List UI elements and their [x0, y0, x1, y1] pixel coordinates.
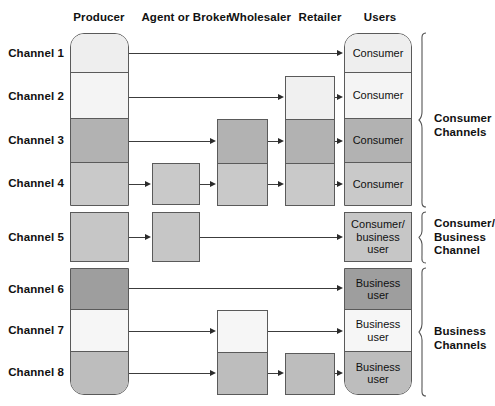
connector-ch8-producer-wholesaler [129, 373, 210, 374]
users-cell-ch4: Consumer [345, 163, 411, 205]
producer-stack-consumer [70, 33, 129, 206]
bracket-business-channels [418, 267, 430, 397]
arrowhead-ch4-wholesaler [210, 181, 216, 187]
bracket-label-consumer-business-line2: Business [434, 231, 495, 245]
agent-cell-ch4 [152, 163, 200, 205]
connector-ch5-agent-users [200, 237, 337, 238]
retailer-cell-ch3 [286, 120, 334, 164]
users-cell-ch8-label-line1: Business [356, 361, 401, 374]
wholesaler-cell-ch4 [218, 164, 267, 205]
arrowhead-ch5-agent [145, 234, 151, 240]
users-cell-ch3: Consumer [345, 119, 411, 163]
users-cell-ch6-label-line2: user [367, 289, 388, 302]
users-cell-ch2-label: Consumer [353, 89, 404, 102]
wholesaler-stack-business [217, 310, 268, 395]
column-header-producer: Producer [62, 11, 136, 23]
channel-label-7: Channel 7 [0, 324, 64, 336]
connector-ch7-producer-wholesaler [129, 331, 210, 332]
bracket-label-consumer-business-channel: Consumer/ Business Channel [434, 217, 495, 258]
wholesaler-cell-ch7 [218, 311, 267, 353]
agent-cell-ch5 [152, 212, 200, 262]
users-stack-consumer: Consumer Consumer Consumer Consumer [344, 33, 412, 206]
bracket-consumer-channels [418, 32, 430, 208]
arrowhead-ch7-users [337, 328, 343, 334]
producer-cell-ch2 [71, 73, 128, 119]
producer-cell-ch1 [71, 34, 128, 73]
users-cell-ch7-label-line1: Business [356, 318, 401, 331]
users-cell-ch7-label-line2: user [367, 331, 388, 344]
bracket-label-consumer-channels-line1: Consumer [434, 112, 492, 126]
connector-ch3-producer-wholesaler [129, 141, 210, 142]
connector-ch4-agent-wholesaler [200, 184, 210, 185]
users-cell-ch3-label: Consumer [353, 134, 404, 147]
retailer-cell-ch4 [286, 164, 334, 205]
arrowhead-ch5-users [337, 234, 343, 240]
column-header-users: Users [344, 11, 416, 23]
connector-ch6-producer-users [129, 288, 337, 289]
users-cell-ch4-label: Consumer [353, 178, 404, 191]
users-cell-ch5: Consumer/ business user [344, 212, 412, 262]
wholesaler-cell-ch3 [218, 120, 267, 164]
bracket-label-business-channels-line1: Business [434, 325, 487, 339]
producer-cell-ch5 [70, 212, 129, 262]
channel-label-3: Channel 3 [0, 134, 64, 146]
users-cell-ch1-label: Consumer [353, 47, 404, 60]
bracket-label-consumer-business-line1: Consumer/ [434, 217, 495, 231]
arrowhead-ch6-users [337, 285, 343, 291]
connector-ch4-wholesaler-retailer [268, 184, 278, 185]
arrowhead-ch3-users [337, 138, 343, 144]
producer-stack-business [70, 268, 129, 395]
users-cell-ch5-label-line3: user [367, 243, 388, 256]
producer-cell-ch7 [71, 310, 128, 352]
bracket-label-consumer-business-line3: Channel [434, 244, 495, 258]
arrowhead-ch3-retailer [278, 138, 284, 144]
arrowhead-ch1-users [337, 50, 343, 56]
arrowhead-ch3-wholesaler [210, 138, 216, 144]
connector-ch8-wholesaler-retailer [268, 373, 278, 374]
users-cell-ch1: Consumer [345, 34, 411, 73]
channel-label-4: Channel 4 [0, 177, 64, 189]
users-stack-business: Business user Business user Business use… [344, 268, 412, 395]
producer-cell-ch3 [71, 119, 128, 163]
channel-label-2: Channel 2 [0, 90, 64, 102]
retailer-cell-ch8 [285, 353, 335, 395]
bracket-label-business-channels: Business Channels [434, 325, 487, 352]
channel-label-5: Channel 5 [0, 231, 64, 243]
arrowhead-ch2-retailer [278, 94, 284, 100]
channel-label-1: Channel 1 [0, 47, 64, 59]
bracket-label-consumer-channels: Consumer Channels [434, 112, 492, 139]
arrowhead-ch8-users [337, 370, 343, 376]
channel-label-6: Channel 6 [0, 283, 64, 295]
users-cell-ch8-label-line2: user [367, 373, 388, 386]
connector-ch4-producer-agent [129, 184, 145, 185]
users-cell-ch8: Business user [345, 352, 411, 394]
users-cell-ch6: Business user [345, 269, 411, 310]
connector-ch1-producer-users [129, 53, 337, 54]
users-cell-ch2: Consumer [345, 73, 411, 119]
connector-ch3-wholesaler-retailer [268, 141, 278, 142]
connector-ch2-producer-retailer [129, 97, 278, 98]
arrowhead-ch7-wholesaler [210, 328, 216, 334]
retailer-cell-ch2 [286, 77, 334, 120]
producer-cell-ch6 [71, 269, 128, 310]
channel-label-8: Channel 8 [0, 366, 64, 378]
arrowhead-ch4-agent [145, 181, 151, 187]
connector-ch7-wholesaler-users [268, 331, 337, 332]
users-cell-ch6-label-line1: Business [356, 277, 401, 290]
bracket-label-consumer-channels-line2: Channels [434, 126, 492, 140]
arrowhead-ch2-users [337, 94, 343, 100]
arrowhead-ch4-retailer [278, 181, 284, 187]
wholesaler-stack-consumer [217, 119, 268, 206]
bracket-label-business-channels-line2: Channels [434, 339, 487, 353]
arrowhead-ch8-wholesaler [210, 370, 216, 376]
users-cell-ch7: Business user [345, 310, 411, 352]
arrowhead-ch4-users [337, 181, 343, 187]
connector-ch5-producer-agent [129, 237, 145, 238]
producer-cell-ch4 [71, 163, 128, 205]
bracket-consumer-business-channel [418, 211, 430, 264]
retailer-stack-consumer [285, 76, 335, 206]
arrowhead-ch8-retailer [278, 370, 284, 376]
users-cell-ch5-label-line2: business [356, 231, 399, 244]
users-cell-ch5-label-line1: Consumer/ [351, 218, 405, 231]
